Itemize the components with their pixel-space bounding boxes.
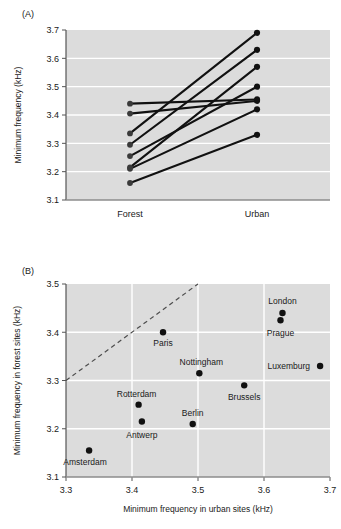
scatter-point-label-london: London (268, 296, 297, 306)
y-axis-tick-label: 3.4 (46, 328, 59, 338)
scatter-point-label-prague: Prague (267, 328, 295, 338)
y-axis-tick-label: 3.7 (46, 25, 59, 35)
scatter-point-label-rotterdam: Rotterdam (117, 389, 157, 399)
scatter-point-antwerp (139, 418, 145, 424)
scatter-point-label-berlin: Berlin (182, 408, 204, 418)
urban-data-point (254, 106, 260, 112)
panel-a: (A) 3.13.23.33.43.53.63.7ForestUrbanMini… (0, 0, 341, 262)
urban-data-point (254, 30, 260, 36)
y-axis-tick-label: 3.2 (46, 167, 59, 177)
scatter-point-label-nottingham: Nottingham (180, 357, 223, 367)
urban-data-point (254, 84, 260, 90)
y-axis-title: Minimum frequency (kHz) (13, 66, 23, 163)
scatter-point-amsterdam (86, 447, 92, 453)
panel-a-chart: 3.13.23.33.43.53.63.7ForestUrbanMinimum … (0, 0, 341, 262)
x-axis-tick-label: 3.7 (324, 485, 337, 495)
urban-data-point (254, 98, 260, 104)
x-axis-category-label-urban: Urban (245, 209, 270, 219)
x-axis-tick-label: 3.5 (192, 485, 205, 495)
scatter-point-rotterdam (135, 401, 141, 407)
scatter-point-label-antwerp: Antwerp (126, 430, 157, 440)
scatter-point-label-luxemburg: Luxemburg (268, 361, 311, 371)
urban-data-point (254, 47, 260, 53)
panel-b-label: (B) (22, 266, 34, 276)
scatter-point-paris (160, 329, 166, 335)
x-axis-tick-label: 3.6 (258, 485, 271, 495)
x-axis-category-label-forest: Forest (117, 209, 143, 219)
panel-b: (B) 3.33.43.53.63.73.13.23.33.43.5Amster… (0, 262, 341, 529)
scatter-point-label-brussels: Brussels (228, 392, 261, 402)
forest-data-point (127, 101, 133, 107)
scatter-point-berlin (190, 421, 196, 427)
x-axis-title: Minimum frequency in urban sites (kHz) (123, 504, 273, 514)
forest-data-point (127, 153, 133, 159)
forest-data-point (127, 166, 133, 172)
scatter-point-london (279, 310, 285, 316)
y-axis-tick-label: 3.6 (46, 54, 59, 64)
scatter-point-label-amsterdam: Amsterdam (63, 457, 106, 467)
scatter-point-prague (277, 317, 283, 323)
scatter-point-nottingham (196, 370, 202, 376)
figure-container: (A) 3.13.23.33.43.53.63.7ForestUrbanMini… (0, 0, 341, 529)
forest-data-point (127, 180, 133, 186)
x-axis-tick-label: 3.4 (126, 485, 139, 495)
panel-b-chart: 3.33.43.53.63.73.13.23.33.43.5AmsterdamA… (0, 262, 341, 529)
y-axis-title: Minimum frequency in forest sites (kHz) (12, 306, 22, 455)
y-axis-tick-label: 3.5 (46, 82, 59, 92)
y-axis-tick-label: 3.4 (46, 110, 59, 120)
forest-data-point (127, 142, 133, 148)
panel-a-label: (A) (22, 9, 34, 19)
y-axis-tick-label: 3.2 (46, 424, 59, 434)
scatter-point-luxemburg (317, 363, 323, 369)
forest-data-point (127, 131, 133, 137)
y-axis-tick-label: 3.1 (46, 472, 59, 482)
x-axis-tick-label: 3.3 (60, 485, 73, 495)
scatter-point-brussels (241, 382, 247, 388)
y-axis-tick-label: 3.3 (46, 376, 59, 386)
scatter-point-label-paris: Paris (153, 338, 172, 348)
y-axis-tick-label: 3.3 (46, 139, 59, 149)
urban-data-point (254, 132, 260, 138)
forest-data-point (127, 111, 133, 117)
urban-data-point (254, 64, 260, 70)
y-axis-tick-label: 3.5 (46, 279, 59, 289)
y-axis-tick-label: 3.1 (46, 195, 59, 205)
